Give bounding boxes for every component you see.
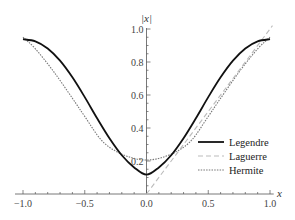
x-tick-label: 1.0 xyxy=(264,198,277,209)
y-tick-label: 0.6 xyxy=(131,90,144,101)
legend-label-hermite: Hermite xyxy=(229,165,264,176)
y-axis-label: |x| xyxy=(141,12,152,24)
y-tick-label: 0.4 xyxy=(131,123,144,134)
y-tick-label: 1.0 xyxy=(131,24,144,35)
x-tick-label: 0.5 xyxy=(202,198,215,209)
chart: −1.0−0.50.00.51.00.20.40.60.81.0x|x| Leg… xyxy=(0,0,295,220)
x-tick-label: −1.0 xyxy=(14,198,32,209)
y-tick-label: 0.8 xyxy=(131,57,144,68)
legend-label-legendre: Legendre xyxy=(229,137,269,148)
axes: −1.0−0.50.00.51.00.20.40.60.81.0x|x| xyxy=(14,12,282,209)
x-tick-label: −0.5 xyxy=(76,198,94,209)
legend: LegendreLaguerreHermite xyxy=(198,137,269,176)
x-tick-label: 0.0 xyxy=(140,198,153,209)
legend-label-laguerre: Laguerre xyxy=(229,151,267,162)
y-tick-label: 0.2 xyxy=(131,156,144,167)
x-axis-label: x xyxy=(276,187,282,199)
